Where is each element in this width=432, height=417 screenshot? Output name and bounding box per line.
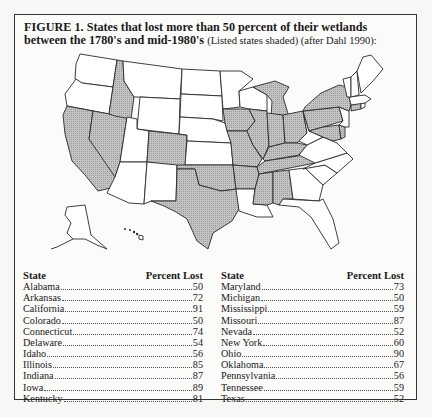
percent-value: 60 [394, 337, 404, 348]
wetland-loss-table-right: State Percent Lost Maryland73 Michigan50… [221, 270, 404, 404]
state-name: Texas [221, 393, 245, 404]
state-name: Connecticut [23, 326, 72, 337]
table-row: New York60 [221, 337, 404, 348]
state-florida [279, 199, 339, 249]
percent-value: 52 [394, 326, 404, 337]
percent-value: 56 [394, 370, 404, 381]
state-alaska [65, 205, 107, 249]
leader-dots [47, 356, 192, 357]
state-name: Colorado [23, 315, 61, 326]
table-row: Pennsylvania56 [221, 370, 404, 381]
state-hawaii [124, 228, 143, 240]
percent-value: 59 [394, 382, 404, 393]
leader-dots [264, 390, 393, 391]
state-name: Arkansas [23, 292, 61, 303]
percent-value: 90 [394, 348, 404, 359]
percent-value: 56 [193, 348, 203, 359]
state-name: Delaware [23, 337, 62, 348]
state-name: Ohio [221, 348, 241, 359]
table-row: Tennessee59 [221, 382, 404, 393]
leader-dots [63, 345, 192, 346]
table-row: Missouri87 [221, 315, 404, 326]
state-name: Alabama [23, 281, 60, 292]
wetland-loss-table-left: State Percent Lost Alabama50 Arkansas72 … [23, 270, 203, 404]
state-colorado [147, 131, 187, 167]
state-kansas [185, 141, 233, 165]
leader-dots [258, 323, 393, 324]
state-name: Maryland [221, 281, 261, 292]
state-name: Mississippi [221, 303, 267, 314]
state-new-mexico [144, 162, 177, 204]
state-montana [123, 61, 182, 99]
table-row: Kentucky81 [23, 393, 203, 404]
state-name: Oklahoma [221, 359, 263, 370]
leader-dots [242, 356, 392, 357]
percent-value: 50 [394, 292, 404, 303]
leader-dots [264, 367, 392, 368]
state-name: Missouri [221, 315, 257, 326]
header-percent-lost: Percent Lost [347, 270, 404, 281]
table-row: Mississippi59 [221, 303, 404, 314]
state-arkansas [233, 165, 259, 189]
state-name: Kentucky [23, 393, 63, 404]
leader-dots [263, 345, 392, 346]
table-header: State Percent Lost [221, 270, 404, 281]
percent-value: 72 [193, 292, 203, 303]
table-row: California91 [23, 303, 203, 314]
caption-note: (Listed states shaded) (after Dahl 1990)… [207, 35, 376, 46]
percent-value: 59 [394, 303, 404, 314]
leader-dots [65, 311, 192, 312]
percent-value: 50 [193, 281, 203, 292]
table-row: Illinois85 [23, 359, 203, 370]
us-wetland-loss-map [27, 49, 407, 271]
table-row: Indiana87 [23, 370, 203, 381]
leader-dots [276, 378, 392, 379]
table-row: Delaware54 [23, 337, 203, 348]
leader-dots [246, 401, 393, 402]
table-row: Texas52 [221, 393, 404, 404]
percent-value: 67 [394, 359, 404, 370]
state-name: Indiana [23, 370, 54, 381]
state-name: Nevada [221, 326, 252, 337]
state-name: Michigan [221, 292, 260, 303]
percent-value: 91 [193, 303, 203, 314]
percent-value: 87 [193, 370, 203, 381]
percent-value: 50 [193, 315, 203, 326]
table-row: Oklahoma67 [221, 359, 404, 370]
leader-dots [53, 367, 192, 368]
percent-value: 85 [193, 359, 203, 370]
table-row: Connecticut74 [23, 326, 203, 337]
header-percent-lost: Percent Lost [146, 270, 203, 281]
percent-value: 87 [394, 315, 404, 326]
leader-dots [55, 378, 192, 379]
percent-value: 54 [193, 337, 203, 348]
leader-dots [73, 334, 192, 335]
leader-dots [61, 289, 192, 290]
percent-value: 81 [193, 393, 203, 404]
leader-dots [253, 334, 393, 335]
state-name: Pennsylvania [221, 370, 275, 381]
state-name: Tennessee [221, 382, 263, 393]
percent-value: 73 [394, 281, 404, 292]
percent-value: 89 [193, 382, 203, 393]
state-name: Illinois [23, 359, 52, 370]
state-indiana [267, 113, 285, 147]
alaska-aleutians [51, 239, 73, 249]
state-name: Idaho [23, 348, 46, 359]
header-state: State [221, 270, 244, 281]
table-row: Colorado50 [23, 315, 203, 326]
state-name: New York [221, 337, 262, 348]
leader-dots [64, 401, 192, 402]
table-row: Idaho56 [23, 348, 203, 359]
table-row: Alabama50 [23, 281, 203, 292]
figure-caption: FIGURE 1. States that lost more than 50 … [24, 21, 409, 47]
leader-dots [62, 300, 192, 301]
table-row: Maryland73 [221, 281, 404, 292]
state-maine [357, 55, 383, 93]
table-row: Iowa89 [23, 382, 203, 393]
leader-dots [262, 289, 393, 290]
leader-dots [268, 311, 392, 312]
percent-value: 52 [394, 393, 404, 404]
table-row: Michigan50 [221, 292, 404, 303]
percent-value: 74 [193, 326, 203, 337]
